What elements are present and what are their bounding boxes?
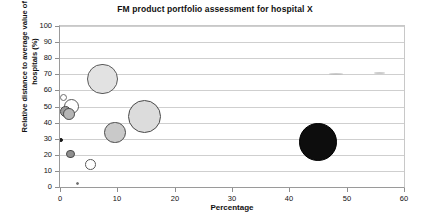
x-tick-mark-20 [175,188,176,192]
y-tick-label-70: 70 [44,70,52,78]
bubble-6[interactable] [66,150,75,159]
y-tick-label-50: 50 [44,103,52,111]
x-tick-label-40: 40 [285,195,293,203]
x-tick-mark-40 [289,188,290,192]
gridline-y-90 [60,42,404,43]
y-tick-label-90: 90 [44,38,52,46]
y-tick-label-10: 10 [44,167,52,175]
x-tick-mark-10 [117,188,118,192]
x-tick-mark-50 [347,188,348,192]
x-tick-label-50: 50 [343,195,351,203]
y-tick-label-80: 80 [44,54,52,62]
y-tick-label-40: 40 [44,119,52,127]
gridline-y-100 [60,26,404,27]
y-tick-label-0: 0 [48,183,52,191]
gridline-y-50 [60,107,404,108]
chart-title: FM product portfolio assessment for hosp… [0,4,430,14]
bubble-12[interactable] [299,123,337,161]
bubble-5[interactable] [59,138,63,142]
y-tick-label-100: 100 [39,22,52,30]
x-tick-mark-60 [404,188,405,192]
bubble-11[interactable] [128,100,161,133]
gridline-y-20 [60,155,404,156]
y-tick-label-20: 20 [44,151,52,159]
x-tick-label-10: 10 [113,195,121,203]
y-axis: 0102030405060708090100 [0,25,59,188]
bubble-8[interactable] [76,182,79,185]
plot-area [59,25,405,188]
bubble-9[interactable] [87,64,118,95]
x-axis-title: Percentage [59,203,405,212]
x-tick-label-20: 20 [171,195,179,203]
bubble-chart: FM product portfolio assessment for hosp… [0,0,430,222]
bubble-7[interactable] [85,159,96,170]
bubble-10[interactable] [104,122,125,143]
y-tick-label-60: 60 [44,86,52,94]
x-tick-label-60: 60 [400,195,408,203]
x-tick-mark-30 [232,188,233,192]
x-tick-label-0: 0 [58,195,62,203]
x-tick-label-30: 30 [228,195,236,203]
x-tick-mark-0 [60,188,61,192]
bubble-4[interactable] [63,108,75,120]
gridline-y-10 [60,171,404,172]
y-tick-label-30: 30 [44,135,52,143]
gridline-y-80 [60,58,404,59]
